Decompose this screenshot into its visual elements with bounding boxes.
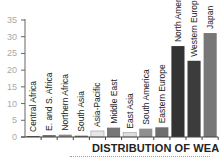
bar [171, 46, 184, 137]
y-tick-label: 20 [7, 65, 17, 75]
category-label: South America [141, 69, 151, 125]
category-label: North America [173, 0, 183, 42]
y-tick-label: 25 [7, 48, 17, 58]
y-tick-label: 10 [7, 99, 17, 109]
bar [139, 129, 152, 137]
y-tick-label: 35 [7, 15, 17, 25]
category-label: Eastern Europe [157, 64, 167, 123]
category-label: Central Africa [28, 81, 38, 132]
subtitle-dotted-line [70, 156, 210, 159]
bar [91, 131, 104, 137]
category-label: Northern Africa [60, 74, 70, 131]
bar [123, 133, 136, 137]
category-label: Western Europe [189, 0, 199, 57]
y-axis: 05101520253035 [7, 15, 25, 142]
category-label: Asia-Pacific [92, 82, 102, 127]
y-tick-label: 15 [7, 82, 17, 92]
chart-title: DISTRIBUTION OF WEALTH [92, 142, 219, 154]
bar [204, 33, 217, 137]
category-label: South Asia [76, 91, 86, 132]
bar-chart: 05101520253035 Central AfricaE. and S. A… [0, 0, 219, 159]
category-label: E. and S. Africa [44, 72, 54, 131]
bar [188, 61, 201, 137]
bar [155, 127, 168, 137]
category-label: Middle East [109, 79, 119, 124]
y-tick-label: 0 [12, 132, 17, 142]
x-axis [21, 137, 218, 140]
bar [107, 128, 120, 137]
category-label: East Asia [125, 93, 135, 129]
category-label: Japan [205, 6, 215, 29]
y-tick-label: 30 [7, 32, 17, 42]
y-tick-label: 5 [12, 115, 17, 125]
category-labels: Central AfricaE. and S. AfricaNorthern A… [28, 0, 215, 132]
